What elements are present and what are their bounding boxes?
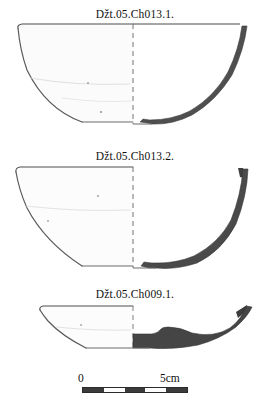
figure-1-label: Džt.05.Ch013.1.: [0, 8, 270, 20]
figure-3: Džt.05.Ch009.1.: [0, 288, 270, 362]
scale-segment: [166, 388, 187, 392]
figure-2-label: Džt.05.Ch013.2.: [0, 150, 270, 162]
figure-3-exterior-view: [40, 306, 133, 348]
scale-bar-labels: 0 5cm: [0, 372, 270, 387]
figure-3-section-view: [133, 305, 252, 349]
figure-1-drawing: [0, 20, 270, 135]
figure-2: Džt.05.Ch013.2.: [0, 150, 270, 282]
figure-2-wall-section: [152, 169, 248, 268]
scale-start-label: 0: [78, 372, 84, 384]
figure-3-inclusion-dot: [80, 324, 82, 326]
scale-segment: [104, 388, 125, 392]
figure-2-inclusion-dot-2: [47, 220, 49, 222]
figure-2-profile-svg: [0, 162, 270, 282]
pottery-plate: Džt.05.Ch013.1.: [0, 0, 270, 420]
scale-bar: 0 5cm: [0, 372, 270, 387]
figure-2-drawing: [0, 162, 270, 282]
scale-end-label: 5cm: [160, 372, 180, 384]
figure-2-section-view: [133, 168, 248, 268]
figure-2-body-fill: [16, 167, 133, 266]
figure-1-inclusion-dot-2: [100, 111, 102, 113]
scale-bar-track: [82, 387, 188, 393]
figure-1-exterior-view: [18, 24, 133, 122]
figure-1-wall-section: [150, 26, 247, 124]
figure-2-inclusion-dot: [97, 195, 99, 197]
figure-3-label: Džt.05.Ch009.1.: [0, 288, 270, 300]
figure-1-section-view: [133, 24, 247, 124]
scale-segment: [125, 388, 146, 392]
scale-segment: [83, 388, 104, 392]
figure-3-wall-section: [133, 306, 252, 349]
figure-3-profile-svg: [0, 300, 270, 362]
figure-1-inclusion-dot: [87, 82, 89, 84]
figure-1-profile-svg: [0, 20, 270, 135]
figure-3-drawing: [0, 300, 270, 362]
figure-1-body-fill: [18, 24, 133, 122]
scale-segment: [145, 388, 166, 392]
figure-2-exterior-view: [16, 167, 133, 266]
figure-1: Džt.05.Ch013.1.: [0, 8, 270, 135]
